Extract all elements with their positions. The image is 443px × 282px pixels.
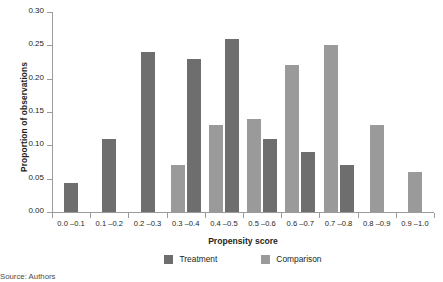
bar-comparison [408,172,422,212]
x-axis-tick [319,213,320,218]
y-axis-tick: 0.10 [47,145,52,146]
propensity-score-histogram-figure: Proportion of observations 0.000.050.100… [0,0,443,282]
bar-comparison [285,65,299,212]
bar-treatment [187,59,201,212]
x-axis-tick-label: 0.8 –0.9 [363,219,390,228]
legend-label: Treatment [179,254,217,264]
bar-treatment [141,52,155,212]
bar-comparison [370,125,384,212]
source-note: Source: Authors [0,272,55,281]
x-axis-tick-label: 0.7 –0.8 [325,219,352,228]
x-axis-tick [90,213,91,218]
bar-comparison [324,45,338,212]
x-axis-tick-label: 0.3 –0.4 [172,219,199,228]
x-axis-tick [52,213,53,218]
legend-item-comparison: Comparison [261,254,321,264]
legend-label: Comparison [276,254,321,264]
y-axis-line [52,12,53,213]
x-axis-tick-label: 0.2 –0.3 [134,219,161,228]
y-axis-tick: 0.30 [47,12,52,13]
x-axis-title: Propensity score [52,236,434,246]
x-axis-tick [128,213,129,218]
x-axis-tick-labels: 0.0 –0.10.1 –0.20.2 –0.30.3 –0.40.4 –0.5… [52,219,434,233]
x-axis-tick-label: 0.0 –0.1 [57,219,84,228]
x-axis-tick-label: 0.1 –0.2 [96,219,123,228]
y-axis-tick-label: 0.00 [14,206,44,215]
y-axis-tick-label: 0.05 [14,173,44,182]
y-axis-tick-label: 0.30 [14,6,44,15]
x-axis-tick [434,213,435,218]
x-axis-tick-label: 0.4 –0.5 [210,219,237,228]
chart-legend: TreatmentComparison [52,252,434,266]
y-axis-tick-label: 0.20 [14,73,44,82]
y-axis-tick-label: 0.10 [14,139,44,148]
x-axis-tick [243,213,244,218]
y-axis-tick: 0.20 [47,79,52,80]
bar-treatment [301,152,315,212]
bar-treatment [225,39,239,212]
x-axis-tick [167,213,168,218]
y-axis-tick-label: 0.25 [14,39,44,48]
y-axis-tick: 0.25 [47,45,52,46]
x-axis-tick [358,213,359,218]
bar-treatment [340,165,354,212]
bar-treatment [64,183,78,212]
x-axis-tick-label: 0.6 –0.7 [287,219,314,228]
x-axis-tick [396,213,397,218]
bar-comparison [171,165,185,212]
x-axis-tick-label: 0.5 –0.6 [248,219,275,228]
bar-comparison [209,125,223,212]
bar-treatment [102,139,116,212]
y-axis-tick-label: 0.15 [14,106,44,115]
legend-item-treatment: Treatment [164,254,217,264]
legend-swatch-icon [261,255,270,264]
legend-swatch-icon [164,255,173,264]
y-axis-tick: 0.05 [47,179,52,180]
plot-area: 0.000.050.100.150.200.250.30 [52,12,434,212]
x-axis-tick-label: 0.9 –1.0 [401,219,428,228]
bar-comparison [247,119,261,212]
x-axis-tick [205,213,206,218]
bar-treatment [263,139,277,212]
y-axis-tick: 0.15 [47,112,52,113]
x-axis-tick [281,213,282,218]
